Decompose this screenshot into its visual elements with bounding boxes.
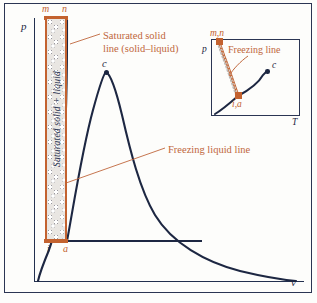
main-x-axis-label: v	[291, 276, 296, 288]
main-y-axis	[34, 18, 35, 282]
inset-point-label-c: c	[272, 60, 276, 70]
inset-point-label-ia: i,a	[232, 99, 242, 109]
saturated-solid-annotation: Saturated solid line (solid–liquid)	[103, 30, 179, 55]
band-label: Saturated solid + liquid	[52, 24, 62, 214]
freezing-liquid-line-annotation: Freezing liquid line	[168, 144, 250, 157]
saturated-solid-liquid-band: Saturated solid + liquid	[45, 19, 67, 241]
saturated-solid-annotation-line1: Saturated solid	[103, 30, 179, 43]
point-label-m: m	[42, 3, 49, 14]
point-label-a: a	[63, 243, 68, 254]
saturated-solid-annotation-line2: line (solid–liquid)	[103, 43, 179, 56]
inset-freezing-line-annotation: Freezing line	[228, 44, 280, 55]
inset-point-label-mn: m,n	[210, 28, 224, 38]
figure-container: p v Saturated solid + liquid m n c	[0, 0, 317, 303]
point-label-i: i	[47, 243, 50, 254]
main-y-axis-label: p	[21, 20, 27, 32]
critical-point-marker	[104, 70, 109, 75]
point-label-n: n	[62, 3, 67, 14]
inset-point-marker-mn	[216, 38, 223, 45]
inset-point-marker-ia	[235, 92, 242, 99]
main-x-axis	[34, 281, 304, 282]
point-label-c: c	[102, 58, 107, 69]
inset-y-axis-label: p	[202, 44, 207, 54]
inset-critical-point-marker	[265, 69, 270, 74]
inset-x-axis-label: T	[292, 117, 297, 127]
